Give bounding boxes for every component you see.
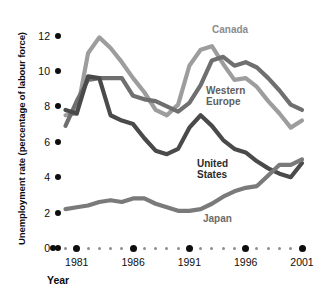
series-label-states: States — [197, 169, 227, 181]
series-label-canada: Canada — [212, 24, 248, 36]
series-label-united: United — [197, 158, 228, 170]
series-label-europe: Europe — [206, 96, 240, 108]
series-label-japan: Japan — [203, 213, 232, 225]
unemployment-line-chart: Unemployment rate (percentage of labour … — [0, 0, 322, 297]
plot-area — [0, 0, 322, 297]
series-label-western: Western — [206, 85, 245, 97]
